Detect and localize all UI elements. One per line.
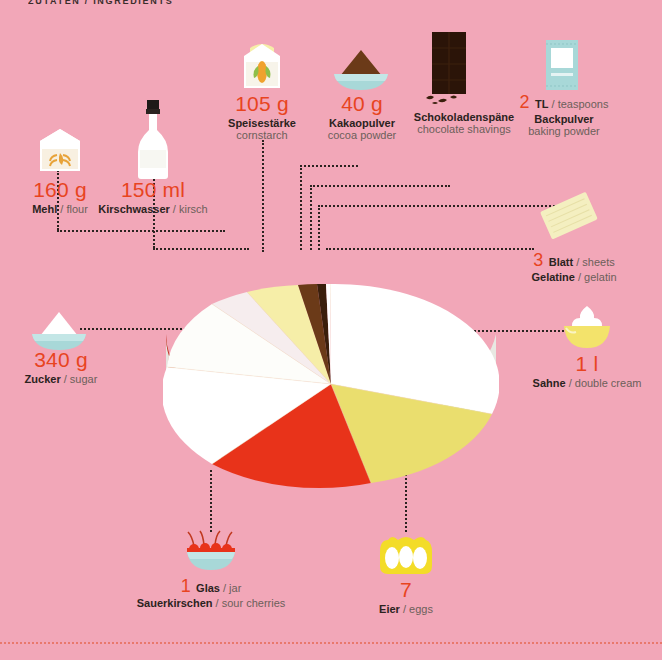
eggs-icon <box>378 536 434 576</box>
leader-line-bakingpowder-horizontal <box>318 205 558 207</box>
gelatin-amount: 3 Blatt / sheets <box>510 250 638 270</box>
infographic-canvas: ZUTATEN / INGREDIENTS <box>0 0 662 660</box>
whipped-cream-icon <box>556 304 618 354</box>
sugar-pile-icon <box>28 310 90 352</box>
flour-bag-icon <box>32 127 88 175</box>
label-gelatin: 3 Blatt / sheets Gelatine / gelatin <box>510 250 638 283</box>
gelatin-name: Gelatine / gelatin <box>510 271 638 283</box>
cornstarch-amount: 105 g <box>204 92 320 116</box>
cream-amount: 1 l <box>512 352 662 376</box>
label-cream: 1 l Sahne / double cream <box>512 352 662 389</box>
cornstarch-bag-icon <box>234 40 290 92</box>
label-sugar: 340 g Zucker / sugar <box>8 348 114 385</box>
label-cornstarch: 105 g Speisestärke cornstarch <box>204 92 320 141</box>
eggs-amount: 7 <box>356 578 456 602</box>
cream-name: Sahne / double cream <box>512 377 662 389</box>
eggs-name: Eier / eggs <box>356 603 456 615</box>
baking-powder-amount: 2 TL / teaspoons <box>508 92 620 112</box>
kirsch-name: Kirschwasser / kirsch <box>92 203 214 215</box>
label-kirsch: 150 ml Kirschwasser / kirsch <box>92 178 214 215</box>
chocolate-bar-icon <box>418 32 478 106</box>
label-eggs: 7 Eier / eggs <box>356 578 456 615</box>
bottle-icon <box>130 100 176 180</box>
label-baking-powder: 2 TL / teaspoons Backpulver baking powde… <box>508 92 620 138</box>
cherry-bowl-icon <box>178 530 244 574</box>
leader-line-cocoa-horizontal <box>300 165 358 167</box>
cherries-name: Sauerkirschen / sour cherries <box>128 597 294 609</box>
footer-divider <box>0 642 662 644</box>
cocoa-bowl-icon <box>330 46 392 92</box>
baking-powder-name: Backpulver <box>508 113 620 125</box>
page-title: ZUTATEN / INGREDIENTS <box>28 0 173 6</box>
cherries-amount: 1 Glas / jar <box>128 576 294 596</box>
sugar-name: Zucker / sugar <box>8 373 114 385</box>
leader-line-chocolate-horizontal <box>310 185 450 187</box>
cornstarch-name-en: cornstarch <box>204 129 320 141</box>
kirsch-amount: 150 ml <box>92 178 214 202</box>
gelatin-sheet-icon <box>528 185 608 247</box>
cornstarch-name: Speisestärke <box>204 117 320 129</box>
pie-chart <box>163 236 499 504</box>
leader-line-flour-horizontal <box>57 230 225 232</box>
pie-top-face <box>163 236 499 504</box>
baking-powder-packet-icon <box>543 38 581 92</box>
label-cherries: 1 Glas / jar Sauerkirschen / sour cherri… <box>128 576 294 609</box>
baking-powder-name-en: baking powder <box>508 125 620 137</box>
sugar-amount: 340 g <box>8 348 114 372</box>
